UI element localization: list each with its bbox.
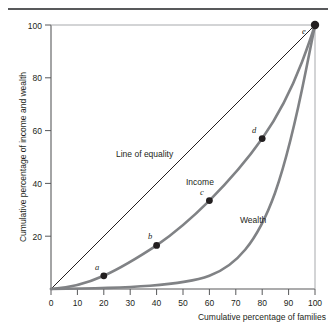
x-tick-label-20: 20 <box>99 298 109 308</box>
data-point-e[interactable] <box>311 21 319 29</box>
y-tick-label-60: 60 <box>33 126 43 136</box>
data-point-d[interactable] <box>259 135 266 142</box>
x-tick-label-80: 80 <box>257 298 267 308</box>
x-tick-label-60: 60 <box>205 298 215 308</box>
data-point-c[interactable] <box>206 197 213 204</box>
data-point-label-b: b <box>148 231 152 241</box>
y-tick-label-20: 20 <box>33 232 43 242</box>
x-tick-label-10: 10 <box>73 298 83 308</box>
x-tick-label-40: 40 <box>152 298 162 308</box>
y-axis-title: Cumulative percentage of income and weal… <box>18 72 28 242</box>
annotation-line-of-equality: Line of equality <box>116 149 174 159</box>
y-axis-ticks <box>45 25 51 236</box>
lorenz-curve-figure: 100 80 60 40 20 0 10 20 30 40 5 <box>0 0 336 336</box>
line-of-equality <box>51 25 315 289</box>
annotation-wealth: Wealth <box>240 215 267 225</box>
x-axis-ticks <box>51 289 315 295</box>
x-tick-label-0: 0 <box>49 298 54 308</box>
x-tick-label-90: 90 <box>284 298 294 308</box>
data-point-label-a: a <box>95 262 99 272</box>
data-point-a[interactable] <box>100 272 107 279</box>
y-tick-label-100: 100 <box>28 21 42 31</box>
data-point-b[interactable] <box>153 242 160 249</box>
y-axis-tick-labels: 100 80 60 40 20 <box>28 21 42 242</box>
annotation-income: Income <box>186 177 214 187</box>
x-tick-label-30: 30 <box>125 298 135 308</box>
x-tick-label-100: 100 <box>308 298 322 308</box>
y-tick-label-40: 40 <box>33 179 43 189</box>
x-tick-label-70: 70 <box>231 298 241 308</box>
chart-canvas: 100 80 60 40 20 0 10 20 30 40 5 <box>0 0 336 336</box>
x-tick-label-50: 50 <box>178 298 188 308</box>
x-axis-title: Cumulative percentage of families <box>198 312 326 322</box>
data-point-label-e: e <box>302 26 306 36</box>
data-point-label-c: c <box>200 187 204 197</box>
x-axis-tick-labels: 0 10 20 30 40 50 60 70 80 90 100 <box>49 298 323 308</box>
data-point-label-d: d <box>252 125 257 135</box>
y-tick-label-80: 80 <box>33 73 43 83</box>
curve-annotations: Line of equality Income Wealth <box>116 149 267 225</box>
